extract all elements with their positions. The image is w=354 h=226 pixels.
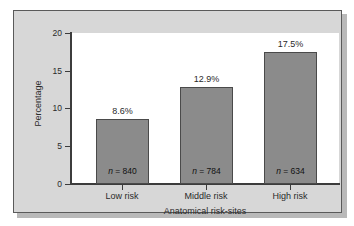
x-tick-label-middle-risk: Middle risk	[166, 192, 246, 201]
y-tick-mark-15	[65, 71, 70, 72]
chart-panel: 20 15 10 5 0 Percentage 8.6% 12.9% 17.5%…	[13, 10, 342, 213]
n-separator-high-risk: =	[281, 166, 291, 176]
y-tick-wrap-0: 0	[14, 184, 62, 185]
bar-n-label-low-risk: n = 840	[96, 167, 149, 176]
x-tick-mark-low-risk	[122, 185, 123, 190]
y-tick-mark-5	[65, 146, 70, 147]
n-separator-low-risk: =	[113, 166, 123, 176]
y-tick-mark-10	[65, 108, 70, 109]
y-tick-label-20: 20	[16, 29, 62, 38]
x-tick-label-high-risk: High risk	[250, 192, 330, 201]
x-tick-mark-middle-risk	[206, 185, 207, 190]
bar-value-label-low-risk: 8.6%	[96, 107, 149, 116]
bar-n-label-high-risk: n = 634	[264, 167, 317, 176]
n-separator-middle-risk: =	[197, 166, 207, 176]
bar-n-label-middle-risk: n = 784	[180, 167, 233, 176]
n-count-low-risk: 840	[123, 166, 137, 176]
y-tick-label-0: 0	[16, 180, 62, 189]
n-count-middle-risk: 784	[207, 166, 221, 176]
bar-value-label-high-risk: 17.5%	[264, 40, 317, 49]
y-axis-title: Percentage	[34, 56, 43, 152]
x-tick-label-low-risk: Low risk	[82, 192, 162, 201]
bar-value-label-middle-risk: 12.9%	[180, 75, 233, 84]
figure-container: 20 15 10 5 0 Percentage 8.6% 12.9% 17.5%…	[0, 0, 354, 226]
y-tick-wrap-20: 20	[14, 33, 62, 34]
y-tick-mark-0	[65, 184, 70, 185]
x-tick-mark-high-risk	[290, 185, 291, 190]
n-count-high-risk: 634	[291, 166, 305, 176]
bar-high-risk	[264, 52, 317, 184]
x-axis-title: Anatomical risk-sites	[71, 207, 339, 216]
y-tick-mark-20	[65, 33, 70, 34]
y-axis-line	[70, 32, 72, 185]
